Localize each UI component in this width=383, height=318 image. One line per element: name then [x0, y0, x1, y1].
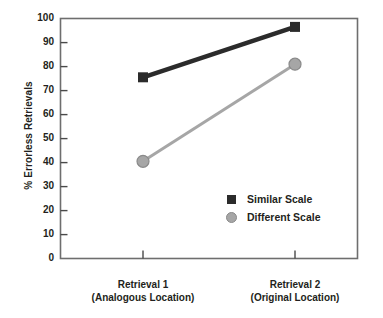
data-point-different-scale-retrieval-1: [137, 155, 149, 167]
data-point-similar-scale-retrieval-1: [138, 72, 148, 82]
x-tick-label-retrieval-2-line2: (Original Location): [220, 291, 370, 304]
chart-legend: Similar Scale Different Scale: [222, 191, 321, 227]
series-line-different-scale: [143, 64, 295, 161]
data-point-similar-scale-retrieval-2: [290, 22, 300, 32]
plot-area: [0, 0, 383, 318]
legend-item-similar-scale: Similar Scale: [222, 191, 321, 207]
square-marker-icon: [222, 195, 240, 204]
circle-marker-icon: [222, 212, 240, 223]
series-line-similar-scale: [143, 27, 295, 77]
x-tick-label-retrieval-2-line1: Retrieval 2: [270, 279, 321, 290]
chart-figure: % Errorless Retrievals 100 90 80 70 60 5…: [0, 0, 383, 318]
x-tick-marks: [143, 251, 295, 259]
x-tick-label-retrieval-1-line1: Retrieval 1: [118, 279, 169, 290]
y-tick-marks: [61, 43, 68, 235]
data-point-different-scale-retrieval-2: [289, 58, 301, 70]
x-tick-label-retrieval-1: Retrieval 1 (Analogous Location): [68, 278, 218, 304]
x-tick-label-retrieval-2: Retrieval 2 (Original Location): [220, 278, 370, 304]
x-tick-label-retrieval-1-line2: (Analogous Location): [68, 291, 218, 304]
legend-label-different-scale: Different Scale: [247, 211, 321, 223]
legend-label-similar-scale: Similar Scale: [247, 193, 312, 205]
legend-item-different-scale: Different Scale: [222, 209, 321, 225]
